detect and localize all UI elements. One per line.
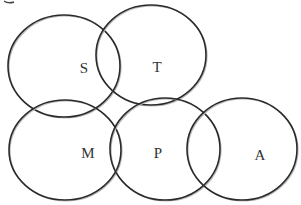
cropped-glyph-mark	[4, 1, 14, 3]
circles-layer	[8, 5, 298, 201]
venn-diagram: STMPA	[0, 0, 301, 205]
labels-layer: STMPA	[80, 59, 266, 163]
circle-label-p: P	[154, 145, 162, 161]
circle-a	[187, 98, 297, 200]
circle-label-s: S	[80, 60, 88, 76]
diagram-canvas: STMPA	[0, 0, 301, 205]
circle-label-t: T	[152, 59, 161, 75]
circle-label-a: A	[255, 147, 266, 163]
circle-label-m: M	[81, 145, 94, 161]
circle-m	[9, 100, 121, 200]
circle-t	[96, 5, 206, 105]
